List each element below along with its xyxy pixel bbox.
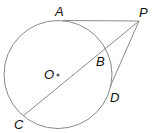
label-d: D — [110, 90, 119, 105]
segment-pc — [23, 21, 139, 116]
label-b: B — [96, 54, 105, 69]
center-dot — [56, 73, 59, 76]
label-a: A — [54, 4, 64, 19]
geometry-diagram: A P B O D C — [0, 0, 153, 133]
segment-pa — [63, 21, 139, 22]
label-o: O — [44, 67, 54, 82]
label-p: P — [139, 5, 148, 20]
segment-pd — [110, 21, 139, 87]
label-c: C — [14, 117, 24, 132]
